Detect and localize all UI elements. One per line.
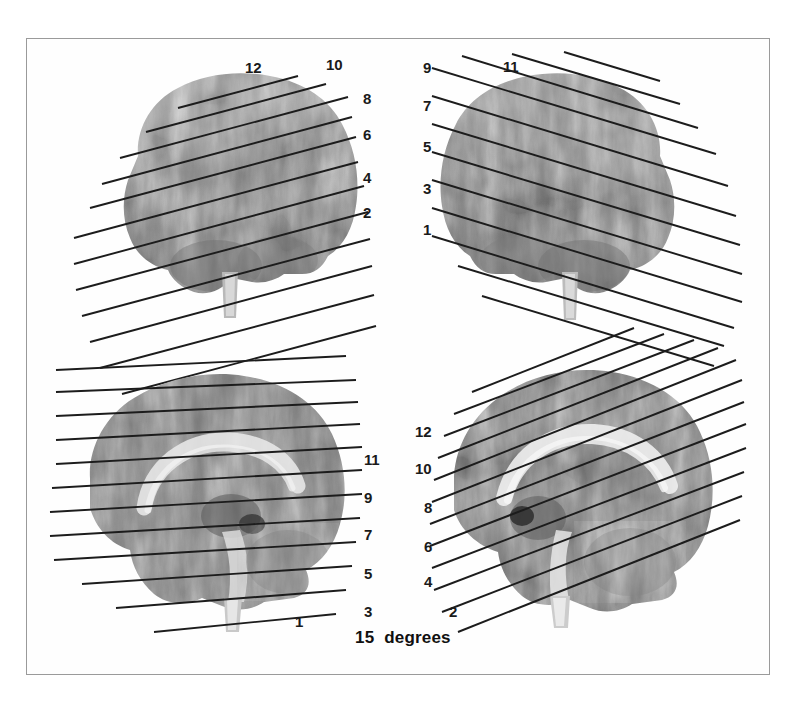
slice-label-11: 11	[503, 59, 518, 74]
brain-render-lateral-left	[418, 58, 708, 308]
slice-label-9: 9	[364, 490, 372, 505]
slice-label-6: 6	[424, 539, 432, 554]
panel-bottom-left: 11 9 7 5 3 1	[26, 340, 398, 640]
slice-label-11: 11	[364, 452, 379, 467]
slice-label-3: 3	[364, 604, 372, 619]
panel-bottom-left-graphic	[26, 340, 398, 640]
slice-label-5: 5	[423, 139, 431, 154]
slice-label-10: 10	[415, 461, 431, 476]
slice-label-3: 3	[423, 181, 431, 196]
brain-render-midsagittal-right	[66, 360, 366, 620]
panel-top-right-graphic	[398, 38, 770, 338]
slice-label-9: 9	[423, 60, 431, 75]
slice-label-8: 8	[363, 91, 371, 106]
brainstem-bottom-left	[224, 598, 242, 632]
panel-bottom-right: 12 10 8 6 4 2	[398, 340, 770, 640]
slice-label-2: 2	[449, 604, 457, 619]
brain-render-midsagittal-left	[428, 358, 738, 620]
slice-label-12: 12	[415, 424, 431, 439]
slice-label-2: 2	[363, 205, 371, 220]
slice-label-12: 12	[245, 60, 261, 75]
brainstem-bottom-right	[550, 596, 570, 628]
slice-label-5: 5	[364, 566, 372, 581]
slice-label-4: 4	[363, 170, 371, 185]
slice-label-1: 1	[295, 614, 303, 629]
slice-label-7: 7	[423, 98, 431, 113]
slice-label-4: 4	[424, 574, 432, 589]
slice-label-10: 10	[326, 57, 342, 72]
slice-label-1: 1	[423, 222, 431, 237]
panel-bottom-right-graphic	[398, 340, 770, 640]
brain-slice-prescription-figure: 12 10 8 6 4 2	[0, 0, 806, 711]
angle-caption: 15 degrees	[355, 628, 451, 648]
panel-top-left-graphic	[26, 38, 398, 338]
panel-top-right: 9 11 7 5 3 1	[398, 38, 770, 338]
slice-label-7: 7	[364, 527, 372, 542]
slice-label-6: 6	[363, 127, 371, 142]
panel-top-left: 12 10 8 6 4 2	[26, 38, 398, 338]
slice-label-8: 8	[424, 500, 432, 515]
